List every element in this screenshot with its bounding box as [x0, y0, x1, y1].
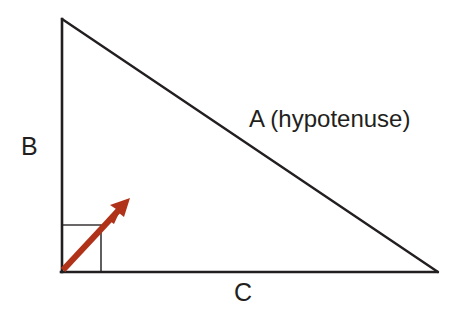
triangle-outline — [61, 19, 438, 272]
side-b-label: B — [21, 134, 38, 159]
side-a-hypotenuse-label: A (hypotenuse) — [249, 107, 410, 131]
right-triangle-diagram: B C A (hypotenuse) — [0, 0, 461, 317]
triangle-side-a-line — [62, 19, 438, 272]
side-c-label: C — [234, 280, 252, 305]
diagonal-arrow-icon — [63, 198, 130, 270]
diagram-canvas — [0, 0, 461, 317]
